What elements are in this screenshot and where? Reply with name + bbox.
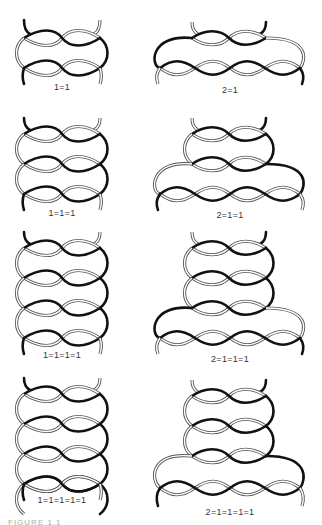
diagram-2=1=1 [155, 118, 304, 210]
diagram-1=1=1 [17, 118, 108, 210]
diagram-2=1=1=1 [155, 232, 304, 354]
diagram-2=1=1=1=1 [155, 380, 304, 506]
diagram-label: 2=1=1 [170, 210, 290, 220]
diagram-1=1=1=1 [17, 232, 108, 354]
diagram-label: 1=1=1 [2, 208, 122, 218]
strand-diagrams [0, 0, 322, 525]
figure-caption: FIGURE 1.1 [8, 518, 62, 525]
diagram-label: 1=1=1=1 [2, 350, 122, 360]
diagram-label: 2=1 [170, 85, 290, 95]
diagram-label: 2=1=1=1 [170, 354, 290, 364]
diagram-1=1 [17, 20, 108, 84]
diagram-label: 2=1=1=1=1 [170, 507, 290, 517]
diagram-label: 1=1 [2, 82, 122, 92]
diagram-label: 1=1=1=1=1 [2, 495, 122, 505]
diagram-1=1=1=1=1 [17, 378, 108, 514]
diagram-2=1 [155, 22, 304, 84]
